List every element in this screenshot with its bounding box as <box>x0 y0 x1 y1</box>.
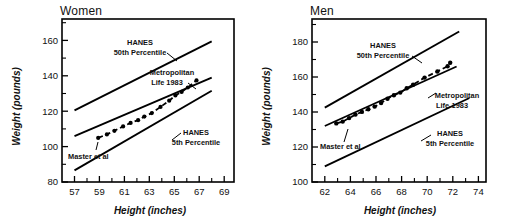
y-tick-label: 180 <box>292 36 308 47</box>
leader-line <box>167 53 177 61</box>
y-tick-label: 120 <box>292 141 308 152</box>
x-tick-label: 66 <box>371 186 382 197</box>
x-tick-label: 68 <box>396 186 407 197</box>
annotation-hanes-50th-women: HANES 50th Percentile <box>114 38 177 61</box>
annotation-metropolitan-life-men: Metropolitan Life-1983 <box>428 91 480 110</box>
leader-line <box>412 56 422 63</box>
annotation-hanes-50th-men: HANES 50th Percentile <box>357 41 422 63</box>
annotation-hanes-5th-men: HANES 5th Percentile <box>421 129 474 148</box>
annotation-line1: Master et al <box>68 152 109 161</box>
y-tick-label: 140 <box>42 70 58 81</box>
y-tick-label: 100 <box>292 176 308 187</box>
y-tick-label: 80 <box>47 176 58 187</box>
y-tick-labels-men: 100 120 140 160 180 <box>292 36 308 187</box>
annotation-line2: Life 1983 <box>151 78 183 87</box>
x-tick-label: 69 <box>219 186 230 197</box>
x-tick-label: 65 <box>169 186 180 197</box>
x-tick-label: 61 <box>119 186 130 197</box>
annotation-line2: 50th Percentile <box>114 48 167 57</box>
annotation-line2: 50th Percentile <box>357 51 410 60</box>
figure-container: Women Weight (pounds) Height (inches) <box>0 0 505 223</box>
leader-line <box>344 129 348 142</box>
annotation-master-et-al-women: Master et al <box>68 142 109 161</box>
y-tick-label: 120 <box>42 106 58 117</box>
annotation-line2: Life-1983 <box>436 101 468 110</box>
x-tick-label: 63 <box>144 186 155 197</box>
annotation-line1: Metropolitan <box>435 91 480 100</box>
annotation-master-et-al-men: Master et al <box>320 129 361 151</box>
annotation-line2: 5th Percentile <box>172 138 220 147</box>
x-tick-labels-women: 57 59 61 63 65 67 69 <box>69 186 229 197</box>
x-tick-label: 64 <box>345 186 356 197</box>
x-tick-label: 74 <box>473 186 484 197</box>
annotation-line1: HANES <box>370 41 396 50</box>
annotation-line1: HANES <box>183 128 209 137</box>
leader-line <box>96 142 98 150</box>
x-tick-label: 67 <box>194 186 205 197</box>
x-tick-label: 70 <box>422 186 433 197</box>
annotation-line2: 5th Percentile <box>426 139 474 148</box>
annotation-hanes-5th-women: HANES 5th Percentile <box>172 128 220 147</box>
plot-area-men: 100 120 140 160 180 <box>252 0 504 223</box>
panel-women: Women Weight (pounds) Height (inches) <box>0 0 252 223</box>
annotation-line1: HANES <box>127 38 153 47</box>
x-tick-label: 62 <box>320 186 331 197</box>
y-tick-label: 140 <box>292 106 308 117</box>
y-tick-label: 100 <box>42 141 58 152</box>
x-tick-label: 59 <box>94 186 105 197</box>
y-major-ticks-men <box>312 42 318 182</box>
y-tick-label: 160 <box>292 71 308 82</box>
x-major-ticks-women <box>75 176 225 182</box>
y-tick-label: 160 <box>42 35 58 46</box>
y-tick-labels-women: 80 100 120 140 160 <box>42 35 58 188</box>
annotation-line1: HANES <box>437 129 463 138</box>
x-major-ticks-men <box>325 176 479 182</box>
x-tick-label: 72 <box>448 186 459 197</box>
annotation-line1: Master et al <box>320 142 361 151</box>
annotation-line1: Metropolitan <box>150 68 195 77</box>
x-tick-label: 57 <box>69 186 80 197</box>
plot-area-women: 80 100 120 140 160 <box>0 0 252 223</box>
x-tick-labels-men: 62 64 66 68 70 72 74 <box>320 186 484 197</box>
panel-men: Men Weight (pounds) Height (inches) <box>252 0 504 223</box>
